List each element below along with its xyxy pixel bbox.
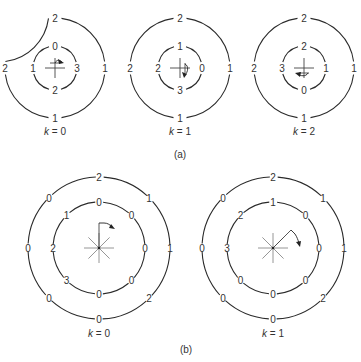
inner-label-left: 3 [279, 63, 285, 74]
inner-label-top: 2 [301, 41, 307, 52]
outer-label-e: 1 [167, 243, 173, 254]
inner-label-sw: 0 [238, 275, 244, 286]
inner-label-n: 1 [270, 197, 276, 208]
caption-b-k0: k = 0 [88, 328, 110, 339]
outer-label-w: 0 [199, 243, 205, 254]
outer-label-left: 2 [2, 63, 8, 74]
inner-label-se: 0 [129, 275, 135, 286]
outer-label-left: 2 [251, 63, 257, 74]
outer-label-top: 2 [177, 13, 183, 24]
outer-label-ne: 1 [146, 193, 152, 204]
outer-label-nw: 0 [220, 193, 226, 204]
outer-label-n: 2 [96, 172, 102, 183]
caption-k2: k = 2 [293, 126, 315, 137]
inner-label-w: 2 [50, 243, 56, 254]
inner-label-se: 0 [303, 275, 309, 286]
outer-label-s: 0 [270, 314, 276, 325]
inner-label-s: 0 [96, 289, 102, 300]
outer-label-se: 2 [320, 293, 326, 304]
inner-label-bottom: 2 [52, 85, 58, 96]
outer-label-w: 0 [25, 243, 31, 254]
inner-label-right: 0 [199, 63, 205, 74]
inner-label-w: 3 [224, 243, 230, 254]
caption-b-k1: k = 1 [262, 328, 284, 339]
outer-label-nw: 0 [46, 193, 52, 204]
diagram-a-k2: 2 2 1 1 2 3 1 0 k = 2 [251, 13, 357, 138]
inner-label-top: 1 [177, 41, 183, 52]
outer-label-top: 2 [52, 13, 58, 24]
inner-label-nw: 2 [238, 210, 244, 221]
inner-label-e: 0 [142, 243, 148, 254]
outer-label-e: 1 [341, 243, 347, 254]
inner-label-bottom: 0 [301, 85, 307, 96]
caption-k1: k = 1 [169, 126, 191, 137]
inner-label-top: 0 [52, 41, 58, 52]
outer-label-n: 2 [270, 172, 276, 183]
inner-label-ne: 0 [303, 210, 309, 221]
crosshair-icon [170, 58, 190, 78]
crosshair-icon [45, 58, 65, 78]
outer-label-bottom: 1 [301, 113, 307, 124]
inner-label-sw: 3 [64, 275, 70, 286]
inner-label-right: 1 [323, 63, 329, 74]
inner-label-left: 2 [155, 63, 161, 74]
inner-label-ne: 0 [129, 210, 135, 221]
inner-label-n: 0 [96, 197, 102, 208]
diagram-a-k1: 2 2 1 1 1 2 0 3 k = 1 [127, 13, 233, 138]
inner-label-right: 3 [74, 63, 80, 74]
inner-label-left: 1 [30, 63, 36, 74]
inner-label-nw: 1 [64, 210, 70, 221]
outer-label-top: 2 [301, 13, 307, 24]
diagram-b-k0: 2 1 1 2 0 0 0 0 0 0 0 0 0 3 2 1 k = 0 [25, 172, 173, 340]
rotation-arrow-icon [291, 230, 301, 247]
caption-k0: k = 0 [44, 126, 66, 137]
outer-label-right: 1 [227, 63, 233, 74]
figure-canvas: 2 2 1 1 0 1 3 2 k = 0 2 [0, 0, 361, 362]
rotation-arrow-icon [99, 223, 115, 229]
diagram-a-k0: 2 2 1 1 0 1 3 2 k = 0 [2, 13, 108, 138]
outer-label-sw: 0 [46, 293, 52, 304]
inner-label-bottom: 3 [177, 85, 183, 96]
outer-label-sw: 0 [220, 293, 226, 304]
inner-label-e: 0 [316, 243, 322, 254]
outer-label-se: 2 [146, 293, 152, 304]
outer-label-bottom: 1 [177, 113, 183, 124]
outer-label-bottom: 1 [52, 113, 58, 124]
part-a-label: (a) [174, 149, 186, 160]
star-axes-icon [258, 230, 291, 263]
outer-label-right: 1 [351, 63, 357, 74]
outer-label-right: 1 [102, 63, 108, 74]
outer-label-ne: 1 [320, 193, 326, 204]
crosshair-icon [294, 58, 314, 78]
diagram-b-k1: 2 1 1 2 0 0 0 0 1 0 0 0 0 0 3 2 k = 1 [199, 172, 347, 340]
inner-label-s: 0 [270, 289, 276, 300]
star-axes-icon [84, 223, 114, 263]
outer-label-s: 0 [96, 314, 102, 325]
outer-label-left: 2 [127, 63, 133, 74]
part-b-label: (b) [180, 344, 192, 355]
